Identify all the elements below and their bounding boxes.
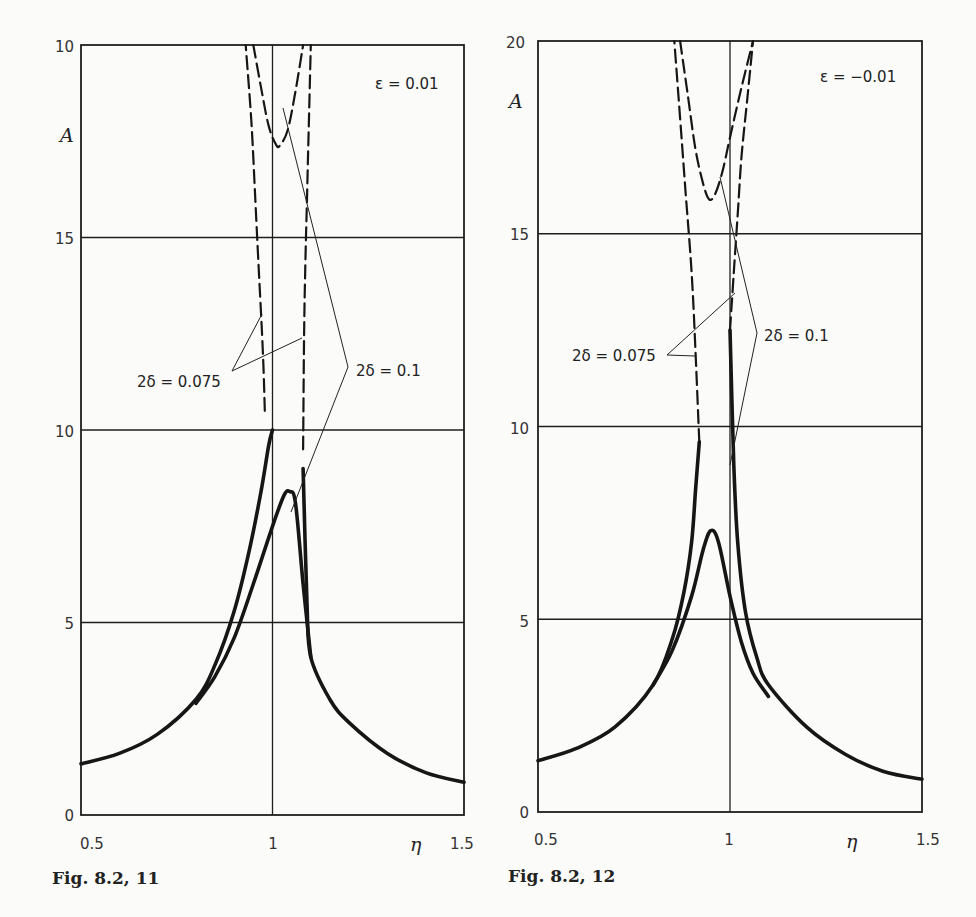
grid-lines [538, 41, 922, 812]
y-tick-label: 10 [510, 420, 529, 438]
stable-branch-curve [653, 530, 768, 696]
unstable-branch-curve [246, 45, 265, 411]
x-axis-label: η [846, 830, 858, 852]
y-tick-label: 15 [55, 230, 74, 248]
figure-caption: Fig. 8.2, 12 [508, 866, 615, 886]
epsilon-label: ε = 0.01 [375, 75, 439, 93]
figure-caption: Fig. 8.2, 11 [52, 868, 159, 888]
annotation-leader-lines [667, 177, 757, 465]
stable-branch-curve [81, 430, 273, 764]
y-tick-label: 5 [519, 613, 529, 631]
y-axis-label: A [507, 90, 523, 112]
y-tick-label: 10 [55, 38, 74, 56]
y-tick-label: 15 [510, 226, 529, 244]
x-axis-label: η [410, 833, 422, 855]
y-tick-label: 0 [519, 804, 529, 822]
annotation-2delta-01: 2δ = 0.1 [764, 327, 829, 345]
annotation-leader-lines [232, 108, 348, 512]
x-tick-label: 0.5 [80, 835, 104, 853]
x-tick-label: 1.5 [450, 835, 474, 853]
y-tick-label: 20 [506, 34, 525, 52]
unstable-branch-curve [253, 45, 303, 147]
annotation-2delta-0075: 2δ = 0.075 [137, 373, 221, 391]
figure-canvas: 10 15 10 5 0 0.5 1 1.5 A η ε = 0.01 2δ =… [0, 0, 976, 917]
y-tick-label: 10 [55, 423, 74, 441]
x-tick-label: 1 [724, 831, 734, 849]
y-tick-label: 5 [64, 615, 74, 633]
annotation-2delta-01: 2δ = 0.1 [356, 362, 421, 380]
unstable-branch-curve [680, 41, 753, 200]
chart-fig-8-2-12: 20 15 10 5 0 0.5 1 1.5 A η ε = −0.01 2δ … [506, 34, 940, 886]
x-tick-label: 1.5 [916, 831, 940, 849]
axis-tick-labels: 20 15 10 5 0 0.5 1 1.5 [506, 34, 940, 849]
unstable-branch-curve [730, 41, 753, 330]
x-tick-label: 1 [268, 835, 278, 853]
chart-fig-8-2-11: 10 15 10 5 0 0.5 1 1.5 A η ε = 0.01 2δ =… [52, 38, 474, 888]
y-axis-label: A [58, 124, 74, 146]
stable-branch-curve [538, 442, 699, 761]
axis-tick-labels: 10 15 10 5 0 0.5 1 1.5 [55, 38, 474, 853]
annotation-2delta-0075: 2δ = 0.075 [572, 347, 656, 365]
epsilon-label: ε = −0.01 [820, 68, 896, 86]
stable-branch-curve [303, 469, 464, 783]
x-tick-label: 0.5 [534, 831, 558, 849]
y-tick-label: 0 [64, 807, 74, 825]
unstable-branch-curve [303, 45, 311, 449]
stable-branch-curve [730, 330, 922, 779]
unstable-branch-curve [674, 41, 699, 442]
